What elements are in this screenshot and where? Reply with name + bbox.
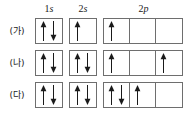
orbital-group-2p-row0 xyxy=(103,18,183,44)
spin-up-arrow xyxy=(108,85,115,105)
orbital-box-2p-2 xyxy=(130,19,156,43)
column-header-row: 1s 2s 2p xyxy=(0,2,187,15)
orbital-group-1s-row1 xyxy=(35,50,63,76)
orbital-group-2s-row1 xyxy=(69,50,97,76)
orbital-box-2s-1 xyxy=(70,19,96,43)
spin-up-arrow xyxy=(134,85,141,105)
orbital-row: (다) xyxy=(0,81,187,109)
column-header-2s: 2s xyxy=(69,2,97,15)
row-label-2: (다) xyxy=(2,81,32,109)
orbital-box-1s-1 xyxy=(36,83,62,107)
orbital-box-2p-1 xyxy=(104,83,130,107)
spin-up-arrow xyxy=(160,53,167,73)
orbital-box-2p-1 xyxy=(104,19,130,43)
orbital-row: (가) xyxy=(0,17,187,45)
orbital-group-2p-row1 xyxy=(103,50,183,76)
spin-up-arrow xyxy=(108,53,115,73)
orbital-diagram: 1s 2s 2p (가) (나) (다) xyxy=(0,0,187,122)
spin-down-arrow xyxy=(50,85,57,105)
orbital-box-2p-3 xyxy=(156,19,182,43)
orbital-group-2s-row2 xyxy=(69,82,97,108)
orbital-box-2p-1 xyxy=(104,51,130,75)
orbital-group-2s-row0 xyxy=(69,18,97,44)
orbital-box-2p-2 xyxy=(130,83,156,107)
orbital-box-1s-1 xyxy=(36,51,62,75)
column-header-1s-letter: s xyxy=(50,3,54,14)
orbital-group-1s-row2 xyxy=(35,82,63,108)
spin-down-arrow xyxy=(50,21,57,41)
spin-up-arrow xyxy=(108,21,115,41)
spin-up-arrow xyxy=(40,21,47,41)
orbital-box-2s-1 xyxy=(70,51,96,75)
orbital-box-1s-1 xyxy=(36,19,62,43)
spin-down-arrow xyxy=(84,85,91,105)
orbital-box-2p-2 xyxy=(130,51,156,75)
orbital-group-2p-row2 xyxy=(103,82,183,108)
row-label-1: (나) xyxy=(2,49,32,77)
spin-up-arrow xyxy=(40,53,47,73)
spin-up-arrow xyxy=(74,85,81,105)
spin-down-arrow xyxy=(84,53,91,73)
orbital-box-2p-3 xyxy=(156,83,182,107)
column-header-1s: 1s xyxy=(35,2,63,15)
spin-up-arrow xyxy=(74,21,81,41)
orbital-row: (나) xyxy=(0,49,187,77)
row-label-0: (가) xyxy=(2,17,32,45)
column-header-2p-letter: p xyxy=(144,3,149,14)
spin-up-arrow xyxy=(74,53,81,73)
column-header-2p: 2p xyxy=(103,2,184,15)
spin-down-arrow xyxy=(50,53,57,73)
orbital-box-2s-1 xyxy=(70,83,96,107)
orbital-box-2p-3 xyxy=(156,51,182,75)
column-header-2s-letter: s xyxy=(84,3,88,14)
spin-up-arrow xyxy=(40,85,47,105)
orbital-group-1s-row0 xyxy=(35,18,63,44)
spin-down-arrow xyxy=(118,85,125,105)
